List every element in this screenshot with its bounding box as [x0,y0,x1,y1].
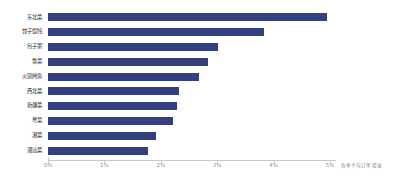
bar-row [48,58,330,66]
bar-row [48,73,330,81]
bar-row [48,87,330,95]
x-tick-label: 0% [44,163,53,168]
x-tick-label: 2% [157,163,166,168]
bar[interactable] [48,102,177,110]
x-axis-line [48,160,336,161]
bar[interactable] [48,28,264,36]
bar-row [48,28,330,36]
x-tick-label: 5% [326,163,335,168]
bar[interactable] [48,43,218,51]
bar[interactable] [48,147,148,155]
bar[interactable] [48,58,208,66]
x-tick-label: 1% [100,163,109,168]
category-label: 饺子馄饨 [0,25,45,40]
bar-row [48,102,330,110]
bar-row [48,132,330,140]
bar-row [48,147,330,155]
x-tick-label: 4% [269,163,278,168]
bar-row [48,117,330,125]
category-label: 新疆菜 [0,99,45,114]
bar[interactable] [48,117,173,125]
bar-row [48,13,330,21]
category-label: 鲁菜 [0,54,45,69]
bar[interactable] [48,87,179,95]
x-tick-label: 3% [213,163,222,168]
category-label: 粤菜 [0,114,45,129]
category-label: 包子粥 [0,40,45,55]
bar[interactable] [48,73,199,81]
bar[interactable] [48,132,156,140]
category-label: 西北菜 [0,84,45,99]
bar-row [48,43,330,51]
plot-area [48,10,330,158]
x-axis-title: 各季平均订单增速 [341,164,382,169]
category-label: 潮汕菜 [0,143,45,158]
category-label: 湘菜 [0,128,45,143]
bar-chart: 东北菜饺子馄饨包子粥鲁菜火锅烤鱼西北菜新疆菜粤菜湘菜潮汕菜 0%1%2%3%4%… [0,0,406,190]
category-axis: 东北菜饺子馄饨包子粥鲁菜火锅烤鱼西北菜新疆菜粤菜湘菜潮汕菜 [0,10,45,158]
category-label: 火锅烤鱼 [0,69,45,84]
category-label: 东北菜 [0,10,45,25]
bar[interactable] [48,13,327,21]
